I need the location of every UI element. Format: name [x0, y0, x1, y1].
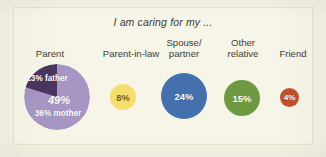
infographic-chart: I am caring for my ... Parent 13% father…: [0, 0, 326, 157]
mark-spouse-partner[interactable]: 24%: [161, 73, 207, 119]
category-label-friend: Friend: [268, 48, 318, 59]
chart-title: I am caring for my ...: [0, 16, 326, 28]
pie-label-mother: 36% mother: [32, 109, 84, 119]
mark-other-relative[interactable]: 15%: [224, 80, 260, 116]
mark-parent-in-law[interactable]: 8%: [110, 84, 136, 110]
mark-friend[interactable]: 4%: [280, 88, 299, 107]
pie-label-father: 13% father: [24, 74, 70, 84]
category-label-other-relative: Other relative: [214, 37, 272, 59]
mark-parent[interactable]: 13% father 49% 36% mother: [24, 64, 90, 130]
category-label-spouse-partner: Spouse/ partner: [152, 37, 216, 59]
pie-label-parent-total: 49%: [36, 94, 82, 106]
category-label-parent: Parent: [14, 48, 86, 59]
